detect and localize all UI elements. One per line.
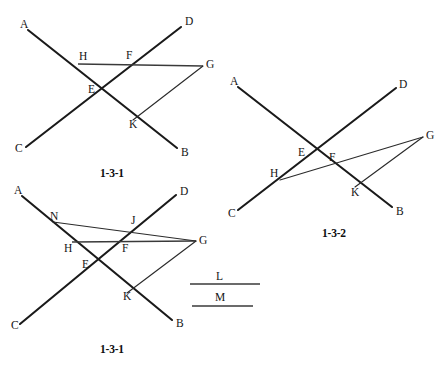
figure-3-caption: 1-3-1 xyxy=(100,344,124,356)
figure-2-point-label-g: G xyxy=(426,130,434,142)
figure-sheet: ABCDEFGHK1-3-1ABCDEFGHK1-3-2ABCDEFGHJKN1… xyxy=(0,0,444,368)
figure-3-line-HG xyxy=(72,241,196,242)
figure-1-line-HG xyxy=(78,64,203,66)
figure-1-point-label-b: B xyxy=(181,147,189,159)
figure-1-point-label-g: G xyxy=(206,59,214,71)
figure-3-point-label-f: F xyxy=(122,243,128,255)
figure-2-point-label-e: E xyxy=(298,147,305,159)
figure-1-point-label-a: A xyxy=(20,19,28,31)
geometry-canvas xyxy=(0,0,444,368)
figure-3-point-label-d: D xyxy=(180,186,188,198)
figure-1-point-label-e: E xyxy=(88,84,95,96)
figure-3-point-label-c: C xyxy=(11,320,19,332)
figure-3-point-label-h: H xyxy=(64,243,72,255)
figure-2-point-label-c: C xyxy=(228,208,236,220)
figure-1-point-label-f: F xyxy=(126,50,132,62)
figure-3-point-label-j: J xyxy=(131,215,135,227)
figure-2-line-AB xyxy=(238,87,392,207)
figure-3-point-label-n: N xyxy=(50,211,58,223)
figure-2-lines xyxy=(238,87,423,210)
figure-3-line-AB xyxy=(22,196,172,320)
figure-3-lines xyxy=(20,195,196,324)
figure-3-point-label-g: G xyxy=(199,235,207,247)
figure-1-line-KG xyxy=(133,66,203,120)
segment-L-label: L xyxy=(216,271,223,283)
figure-3-point-label-k: K xyxy=(123,291,131,303)
segment-M-label: M xyxy=(215,292,225,304)
figure-3-point-label-a: A xyxy=(14,185,22,197)
figure-1-lines xyxy=(26,27,203,148)
figure-1-point-label-h: H xyxy=(79,51,87,63)
figure-2-point-label-b: B xyxy=(396,206,404,218)
figure-1-point-label-c: C xyxy=(15,143,23,155)
figure-2-point-label-h: H xyxy=(270,168,278,180)
figure-2-point-label-f: F xyxy=(329,152,335,164)
figure-1-point-label-k: K xyxy=(129,119,137,131)
figure-2-line-KG xyxy=(355,137,423,187)
figure-2-point-label-d: D xyxy=(399,79,407,91)
figure-3-line-KG xyxy=(127,241,196,293)
figure-1-line-CD xyxy=(26,27,181,147)
figure-2-line-HG xyxy=(280,137,423,180)
figure-1-point-label-d: D xyxy=(185,16,193,28)
figure-2-caption: 1-3-2 xyxy=(322,228,346,240)
figure-1-caption: 1-3-1 xyxy=(100,168,124,180)
figure-2-point-label-a: A xyxy=(230,76,238,88)
figure-2-point-label-k: K xyxy=(351,187,359,199)
figure-3-point-label-e: E xyxy=(82,259,89,271)
figure-3-point-label-b: B xyxy=(176,318,184,330)
